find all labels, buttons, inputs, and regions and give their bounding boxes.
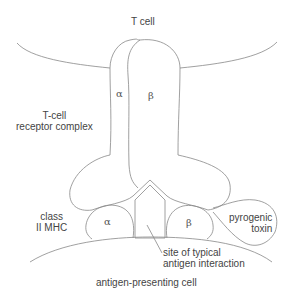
antigen-site-label-line2: antigen interaction bbox=[163, 258, 245, 269]
diagram-canvas: T cell T-cell receptor complex α β class… bbox=[0, 0, 291, 290]
antigen-site-label: site of typical antigen interaction bbox=[163, 247, 245, 269]
mhc-label-line2: II MHC bbox=[36, 222, 67, 233]
tcr-alpha-beta-divide bbox=[128, 40, 140, 188]
mhc-label: class II MHC bbox=[36, 211, 67, 233]
t-cell-membrane-right bbox=[180, 42, 277, 68]
antigen-site-label-line1: site of typical bbox=[163, 247, 245, 258]
antigen-site-pointer bbox=[147, 225, 162, 253]
mhc-beta-label: β bbox=[186, 217, 192, 228]
toxin-label-line1: pyrogenic bbox=[229, 212, 272, 223]
t-cell-membrane-left bbox=[17, 43, 110, 68]
tcr-alpha-label: α bbox=[116, 88, 123, 99]
toxin-label: pyrogenic toxin bbox=[229, 212, 272, 234]
mhc-label-line1: class bbox=[36, 211, 67, 222]
tcr-complex-label-line2: receptor complex bbox=[16, 121, 93, 132]
tcr-complex-label-line1: T-cell bbox=[16, 110, 93, 121]
t-cell-label: T cell bbox=[131, 16, 155, 27]
tcr-complex-label: T-cell receptor complex bbox=[16, 110, 93, 132]
tcr-beta-label: β bbox=[148, 90, 154, 101]
diagram-shapes bbox=[0, 0, 291, 290]
toxin-label-line2: toxin bbox=[229, 223, 272, 234]
apc-label: antigen-presenting cell bbox=[96, 277, 197, 288]
mhc-alpha-label: α bbox=[104, 216, 111, 227]
